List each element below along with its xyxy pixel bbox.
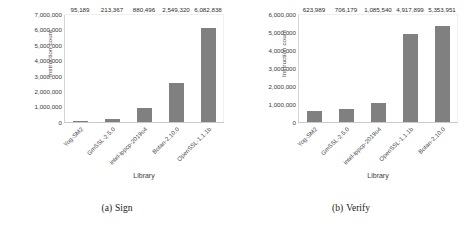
caption-text: Verify bbox=[346, 203, 370, 213]
bar[interactable] bbox=[339, 109, 354, 122]
y-tick: 6,000,000 bbox=[34, 26, 62, 33]
bar[interactable] bbox=[105, 119, 120, 122]
bar-slot: 2,549,320 bbox=[160, 14, 192, 122]
bar-slot: 880,496 bbox=[128, 14, 160, 122]
bar-value-label: 6,082,838 bbox=[194, 6, 222, 13]
y-tick: 7,000,000 bbox=[34, 11, 62, 18]
bar[interactable] bbox=[201, 28, 216, 122]
bar-slot: 706,179 bbox=[330, 14, 362, 122]
bar-value-label: 5,353,951 bbox=[428, 6, 456, 13]
x-axis-line bbox=[298, 122, 458, 123]
x-tick-slot: OpenSSL-1.1.1b bbox=[192, 124, 224, 170]
bar-value-label: 1,085,540 bbox=[364, 6, 392, 13]
panel-verify: Instruction count 6,000,000 5,000,000 4,… bbox=[234, 0, 468, 239]
y-tick: 3,000,000 bbox=[34, 73, 62, 80]
bar-value-label: 2,549,320 bbox=[162, 6, 190, 13]
figure-two-panel-bar-charts: Instruction count 7,000,000 6,000,000 5,… bbox=[0, 0, 468, 239]
bar-series-verify: 623,989 706,179 1,085,540 4,917,899 5,35… bbox=[298, 14, 458, 122]
bar-slot: 4,917,899 bbox=[394, 14, 426, 122]
x-tick-label: Yog-SM2 bbox=[62, 126, 84, 148]
bar[interactable] bbox=[371, 103, 386, 123]
bar-slot: 213,367 bbox=[96, 14, 128, 122]
y-tick: 5,000,000 bbox=[34, 42, 62, 49]
bar[interactable] bbox=[403, 34, 418, 123]
y-tick: 0 bbox=[293, 119, 296, 126]
y-tick: 1,000,000 bbox=[34, 103, 62, 110]
bar[interactable] bbox=[137, 108, 152, 122]
x-tick-label: Yog-SM2 bbox=[296, 126, 318, 148]
chart-sign: Instruction count 7,000,000 6,000,000 5,… bbox=[0, 0, 234, 195]
bar[interactable] bbox=[435, 26, 450, 122]
x-axis-ticks-sign: Yog-SM2 GmSSL-2.5.0 intel-ippcp-2019u4 B… bbox=[64, 124, 224, 170]
panel-caption-sign: (a)Sign bbox=[0, 203, 234, 213]
panel-caption-verify: (b)Verify bbox=[234, 203, 468, 213]
bar-slot: 623,989 bbox=[298, 14, 330, 122]
bar-slot: 6,082,838 bbox=[192, 14, 224, 122]
bar-value-label: 213,367 bbox=[101, 6, 123, 13]
x-axis-title: Library bbox=[64, 172, 224, 179]
bar-slot: 95,189 bbox=[64, 14, 96, 122]
y-tick: 3,000,000 bbox=[268, 65, 296, 72]
y-tick: 4,000,000 bbox=[34, 57, 62, 64]
panel-sign: Instruction count 7,000,000 6,000,000 5,… bbox=[0, 0, 234, 239]
bar-value-label: 706,179 bbox=[335, 6, 357, 13]
bar-slot: 1,085,540 bbox=[362, 14, 394, 122]
bar[interactable] bbox=[73, 121, 88, 123]
x-tick-slot: Botan-2.10.0 bbox=[426, 124, 458, 170]
y-tick: 5,000,000 bbox=[268, 29, 296, 36]
y-tick: 2,000,000 bbox=[268, 83, 296, 90]
bar[interactable] bbox=[307, 111, 322, 122]
bar-value-label: 95,189 bbox=[71, 6, 90, 13]
bar-value-label: 4,917,899 bbox=[396, 6, 424, 13]
bar-slot: 5,353,951 bbox=[426, 14, 458, 122]
y-tick: 6,000,000 bbox=[268, 11, 296, 18]
x-axis-line bbox=[64, 122, 224, 123]
caption-text: Sign bbox=[115, 203, 132, 213]
y-axis-ticks-verify: 6,000,000 5,000,000 4,000,000 3,000,000 … bbox=[256, 14, 296, 122]
caption-tag: (b) bbox=[332, 203, 343, 213]
y-tick: 0 bbox=[59, 119, 62, 126]
y-tick: 1,000,000 bbox=[268, 101, 296, 108]
bar-series-sign: 95,189 213,367 880,496 2,549,320 6,082,8… bbox=[64, 14, 224, 122]
caption-tag: (a) bbox=[102, 203, 113, 213]
bar-value-label: 623,989 bbox=[303, 6, 325, 13]
bar-value-label: 880,496 bbox=[133, 6, 155, 13]
y-tick: 2,000,000 bbox=[34, 88, 62, 95]
chart-verify: Instruction count 6,000,000 5,000,000 4,… bbox=[234, 0, 468, 195]
y-axis-ticks-sign: 7,000,000 6,000,000 5,000,000 4,000,000 … bbox=[22, 14, 62, 122]
y-tick: 4,000,000 bbox=[268, 47, 296, 54]
bar[interactable] bbox=[169, 83, 184, 122]
x-axis-ticks-verify: Yog-SM2 GmSSL-2.5.0 intel-ippcp-2019u4 O… bbox=[298, 124, 458, 170]
x-axis-title: Library bbox=[298, 172, 458, 179]
